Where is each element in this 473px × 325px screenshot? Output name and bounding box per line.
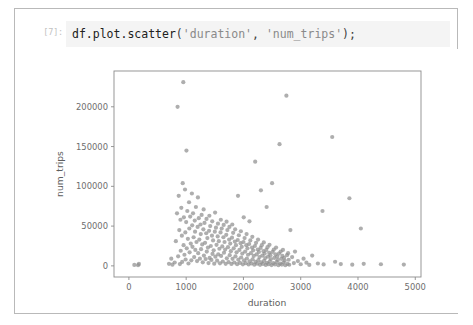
x-tick-label: 2000 bbox=[233, 282, 254, 292]
y-tick-label: 200000 bbox=[76, 102, 108, 112]
y-tick-label: 100000 bbox=[76, 181, 108, 191]
scatter-point bbox=[402, 262, 406, 266]
scatter-point bbox=[270, 181, 274, 185]
scatter-point bbox=[265, 205, 269, 209]
scatter-point bbox=[224, 233, 228, 237]
scatter-point bbox=[202, 207, 206, 211]
y-tick-label: 150000 bbox=[76, 142, 108, 152]
scatter-point bbox=[203, 241, 207, 245]
x-axis-ticks: 010002000300040005000 bbox=[126, 277, 426, 292]
scatter-point bbox=[333, 260, 337, 264]
scatter-point bbox=[307, 263, 311, 267]
x-tick-label: 5000 bbox=[405, 282, 426, 292]
scatter-point bbox=[202, 253, 206, 257]
scatter-point bbox=[212, 248, 216, 252]
scatter-point bbox=[177, 228, 181, 232]
code-editor-area[interactable]: df.plot.scatter('duration', 'num_trips')… bbox=[66, 21, 450, 47]
scatter-point bbox=[180, 260, 184, 264]
scatter-point bbox=[248, 238, 252, 242]
scatter-point bbox=[359, 226, 363, 230]
scatter-point bbox=[219, 218, 223, 222]
scatter-point bbox=[288, 228, 292, 232]
scatter-point bbox=[183, 187, 187, 191]
scatter-point bbox=[274, 245, 278, 249]
scatter-point bbox=[175, 211, 179, 215]
scatter-point bbox=[179, 206, 183, 210]
scatter-point bbox=[347, 196, 351, 200]
scatter-point bbox=[201, 260, 205, 264]
code-token-6: ); bbox=[342, 27, 356, 41]
scatter-point bbox=[226, 245, 230, 249]
code-token-3: , bbox=[252, 27, 259, 41]
code-line[interactable]: df.plot.scatter('duration', 'num_trips')… bbox=[72, 26, 356, 42]
scatter-point bbox=[186, 237, 190, 241]
scatter-point bbox=[200, 213, 204, 217]
scatter-point bbox=[259, 188, 263, 192]
scatter-point bbox=[220, 226, 224, 230]
scatter-point bbox=[222, 240, 226, 244]
code-token-2: 'duration' bbox=[183, 27, 252, 41]
scatter-point bbox=[202, 221, 206, 225]
scatter-point bbox=[191, 211, 195, 215]
scatter-point bbox=[204, 257, 208, 261]
scatter-point bbox=[219, 254, 223, 258]
scatter-point bbox=[185, 209, 189, 213]
scatter-point bbox=[263, 251, 267, 255]
scatter-point bbox=[181, 181, 185, 185]
scatter-point bbox=[214, 243, 218, 247]
scatter-point bbox=[205, 236, 209, 240]
scatter-point bbox=[192, 255, 196, 259]
scatter-point bbox=[216, 222, 220, 226]
scatter-point bbox=[231, 231, 235, 235]
scatter-point bbox=[262, 240, 266, 244]
scatter-point bbox=[196, 195, 200, 199]
scatter-point bbox=[186, 261, 190, 265]
scatter-point bbox=[234, 243, 238, 247]
scatter-point bbox=[199, 247, 203, 251]
scatter-point bbox=[181, 243, 185, 247]
scatter-point bbox=[286, 251, 290, 255]
code-token-0: df.plot.scatter bbox=[72, 27, 176, 41]
scatter-point bbox=[206, 261, 210, 265]
scatter-point bbox=[283, 259, 287, 263]
scatter-point bbox=[244, 232, 248, 236]
scatter-point bbox=[245, 246, 249, 250]
scatter-point bbox=[224, 220, 228, 224]
scatter-point bbox=[322, 262, 326, 266]
scatter-point bbox=[242, 215, 246, 219]
scatter-point bbox=[247, 242, 251, 246]
scatter-point bbox=[267, 243, 271, 247]
scatter-point bbox=[220, 244, 224, 248]
scatter-point bbox=[277, 142, 281, 146]
scatter-point bbox=[201, 227, 205, 231]
x-tick-label: 1000 bbox=[176, 282, 197, 292]
scatter-point bbox=[180, 234, 184, 238]
scatter-point bbox=[239, 229, 243, 233]
scatter-point bbox=[174, 239, 178, 243]
x-axis-label: duration bbox=[248, 297, 287, 308]
scatter-point bbox=[204, 217, 208, 221]
scatter-point bbox=[218, 230, 222, 234]
scatter-point bbox=[198, 257, 202, 261]
scatter-point bbox=[362, 262, 366, 266]
scatter-point bbox=[216, 234, 220, 238]
scatter-point bbox=[182, 253, 186, 257]
scatter-point bbox=[211, 238, 215, 242]
scatter-point bbox=[193, 230, 197, 234]
scatter-point bbox=[190, 223, 194, 227]
scatter-point bbox=[214, 226, 218, 230]
scatter-point bbox=[192, 235, 196, 239]
code-token-5: 'num_trips' bbox=[266, 27, 342, 41]
scatter-point bbox=[230, 222, 234, 226]
scatter-point bbox=[316, 261, 320, 265]
y-axis-ticks: 050000100000150000200000 bbox=[76, 102, 114, 271]
y-tick-label: 0 bbox=[103, 261, 108, 271]
code-token-1: ( bbox=[176, 27, 183, 41]
scatter-point bbox=[189, 258, 193, 262]
scatter-point bbox=[185, 246, 189, 250]
scatter-point bbox=[287, 263, 291, 267]
scatter-point bbox=[182, 215, 186, 219]
x-tick-label: 0 bbox=[126, 282, 131, 292]
scatter-point bbox=[184, 257, 188, 261]
scatter-point bbox=[296, 259, 300, 263]
